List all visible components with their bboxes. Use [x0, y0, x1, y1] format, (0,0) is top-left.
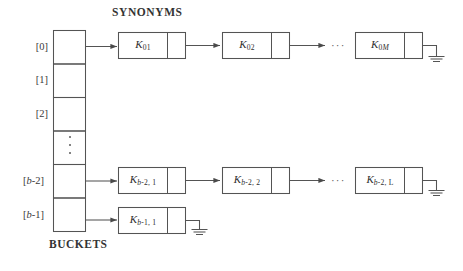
node-key-r0n1: K02: [223, 39, 271, 52]
bucket-label-b-minus-2: [b-2]: [2, 176, 44, 187]
null-terminator-r1n2: [423, 181, 445, 196]
node-key-r1n0: Kb-2, 1: [119, 174, 167, 187]
node-key-r0n0: K01: [119, 39, 167, 52]
bucket-label-b-minus-1: [b-1]: [2, 210, 44, 221]
bucket-label-1: [1]: [6, 75, 48, 86]
buckets-caption: BUCKETS: [49, 239, 107, 251]
chain-ellipsis-row0: ···: [331, 40, 346, 51]
bucket-cell-4: [54, 165, 86, 199]
node-key-r1n2: Kb-2, L: [356, 174, 404, 187]
node-key-r2n0: Kb-1, 1: [119, 214, 167, 227]
bucket-cell-5: [54, 198, 86, 232]
null-terminator-r0n2: [423, 46, 445, 62]
node-key-r1n1: Kb-2, 2: [223, 174, 271, 187]
chain-ellipsis-row1: ···: [331, 175, 346, 186]
bucket-label-2: [2]: [6, 109, 48, 120]
bucket-vertical-ellipsis: [68, 136, 72, 154]
hash-table-diagram: SYNONYMS BUCKETS [0] [1] [2] [b-2] [b-1]…: [0, 0, 463, 271]
bucket-cell-1: [54, 64, 86, 98]
null-terminator-r2n0: [186, 221, 208, 235]
bucket-cell-0: [54, 31, 86, 65]
bucket-label-0: [0]: [6, 42, 48, 53]
bucket-cell-2: [54, 98, 86, 132]
node-key-r0n2: K0M: [356, 39, 404, 52]
synonyms-title: SYNONYMS: [112, 7, 183, 19]
buckets-column: [54, 31, 86, 232]
